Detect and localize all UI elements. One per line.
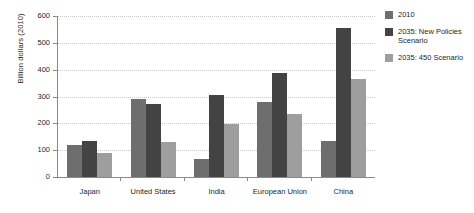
y-tick-mark [53,177,57,178]
y-axis-title: Billion dollars (2010) [16,0,25,109]
legend-label: 2035: 450 Scenario [398,53,463,63]
legend-item[interactable]: 2035: 450 Scenario [385,53,474,63]
y-tick-label: 400 [37,66,50,74]
y-tick-mark [53,16,57,17]
chart-legend: 20102035: New Policies Scenario2035: 450… [385,10,474,69]
bar [351,79,366,177]
y-tick-mark [53,97,57,98]
legend-label: 2010 [398,10,415,20]
plot-area: 0100200300400500600 JapanUnited StatesIn… [57,16,375,178]
bar [161,142,176,177]
x-axis-category-label: Japan [58,187,121,196]
legend-item[interactable]: 2035: New Policies Scenario [385,27,474,46]
bar [209,95,224,177]
bar-group: India [185,16,248,177]
y-tick-mark [53,43,57,44]
bar [146,104,161,177]
bar-group: European Union [248,16,311,177]
x-tick-mark [247,177,248,181]
y-tick-label: 0 [46,173,50,181]
x-tick-mark [311,177,312,181]
x-axis-line [57,177,375,178]
legend-swatch-icon [385,28,393,36]
bar-groups: JapanUnited StatesIndiaEuropean UnionChi… [58,16,375,177]
y-tick-label: 200 [37,120,50,128]
bar [336,28,351,177]
bar-group: China [312,16,375,177]
x-axis-category-label: China [312,187,375,196]
bar [82,141,97,177]
x-axis-category-label: European Union [248,187,311,196]
y-tick-label: 100 [37,146,50,154]
bar [321,141,336,177]
y-tick-mark [53,70,57,71]
bar [194,159,209,177]
y-tick-label: 300 [37,93,50,101]
x-axis-category-label: United States [121,187,184,196]
bar [67,145,82,177]
bar [257,102,272,177]
legend-label: 2035: New Policies Scenario [398,27,474,46]
legend-item[interactable]: 2010 [385,10,474,20]
y-tick-mark [53,123,57,124]
y-tick-mark [53,150,57,151]
bar [131,99,146,177]
x-tick-mark [120,177,121,181]
bar-group: Japan [58,16,121,177]
x-axis-category-label: India [185,187,248,196]
bar-group: United States [121,16,184,177]
y-tick-label: 500 [37,39,50,47]
y-tick-label: 600 [37,12,50,20]
legend-swatch-icon [385,11,393,19]
bar [272,73,287,177]
bar [97,153,112,177]
legend-swatch-icon [385,54,393,62]
x-tick-mark [184,177,185,181]
bar [224,124,239,177]
bar [287,114,302,177]
bar-chart: Billion dollars (2010) 01002003004005006… [0,0,474,213]
